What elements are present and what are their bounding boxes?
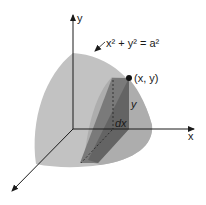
thickness-label: dx (115, 117, 127, 129)
equation-label: x² + y² = a² (106, 37, 160, 49)
y-axis-label: y (77, 12, 83, 24)
equation-pointer (95, 42, 105, 51)
x-axis-label: x (188, 130, 194, 142)
point-marker (126, 75, 132, 81)
point-label: (x, y) (134, 72, 158, 84)
diagram-figure: y x x² + y² = a² (x, y) y dx (0, 0, 206, 205)
